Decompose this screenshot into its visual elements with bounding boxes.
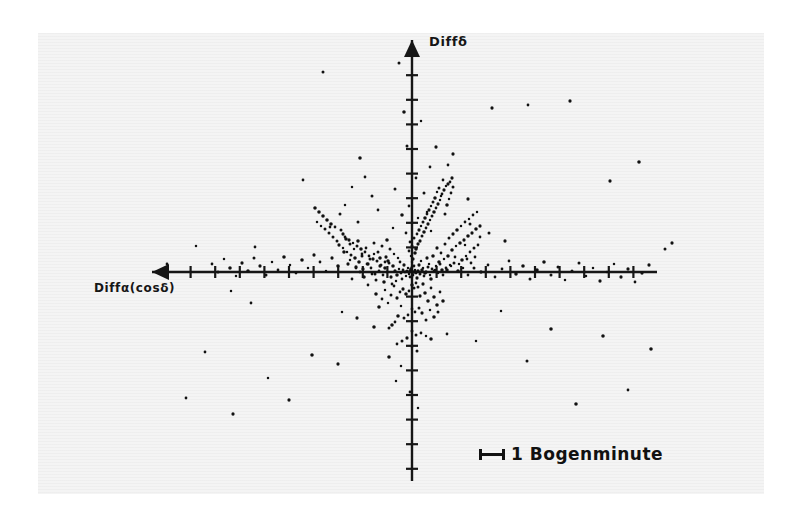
data-point <box>425 335 428 338</box>
data-point <box>341 232 344 235</box>
data-point <box>405 232 408 235</box>
data-point <box>420 234 423 237</box>
data-point <box>397 257 400 260</box>
data-point <box>410 329 413 332</box>
data-point <box>422 191 425 194</box>
data-point <box>329 222 333 226</box>
data-point <box>365 247 368 250</box>
data-point <box>418 272 421 275</box>
data-point <box>254 246 257 249</box>
data-point <box>414 311 417 314</box>
data-point <box>450 248 454 252</box>
data-point <box>376 250 379 253</box>
data-point <box>388 247 391 250</box>
data-point <box>416 242 419 245</box>
data-point <box>356 239 360 243</box>
data-point <box>429 337 433 341</box>
data-point <box>423 275 426 278</box>
data-point <box>408 205 411 208</box>
data-point <box>230 290 233 293</box>
data-point <box>366 262 369 265</box>
data-point <box>413 265 416 268</box>
data-point <box>400 339 403 342</box>
data-point <box>353 248 356 251</box>
data-point <box>362 275 366 279</box>
data-point <box>442 274 445 277</box>
data-point <box>464 221 467 224</box>
data-point <box>282 255 286 259</box>
data-point <box>348 242 351 245</box>
data-point <box>670 241 673 244</box>
data-point <box>430 230 433 233</box>
data-point <box>472 266 475 269</box>
data-point <box>374 292 378 296</box>
data-point <box>317 210 321 214</box>
data-point <box>387 326 390 329</box>
data-point <box>451 152 454 155</box>
data-point <box>443 242 446 245</box>
data-point <box>433 196 437 200</box>
data-point <box>355 244 358 247</box>
data-point <box>472 246 475 249</box>
data-point <box>425 256 428 259</box>
data-point <box>414 247 418 251</box>
data-point <box>465 255 468 258</box>
data-point <box>429 166 432 169</box>
data-point <box>346 251 349 254</box>
data-point <box>344 237 348 241</box>
scale-bar-right-cap <box>502 449 505 460</box>
data-point <box>442 188 445 191</box>
data-point <box>503 239 506 242</box>
data-point <box>415 177 418 180</box>
data-point <box>447 164 450 167</box>
data-point <box>395 296 398 299</box>
data-point <box>415 349 418 352</box>
data-point <box>381 298 384 301</box>
data-point <box>325 218 329 222</box>
data-point <box>327 231 330 234</box>
data-point <box>494 276 497 279</box>
data-point <box>374 278 377 281</box>
data-point <box>466 234 470 238</box>
data-point <box>416 233 419 236</box>
data-point <box>410 283 414 287</box>
data-point <box>295 272 298 275</box>
data-point <box>423 291 427 295</box>
data-point <box>525 359 528 362</box>
data-point <box>373 272 376 275</box>
data-point <box>405 336 408 339</box>
data-point <box>441 299 445 303</box>
data-point <box>598 279 601 282</box>
data-point <box>355 316 358 319</box>
data-point <box>411 261 414 264</box>
data-point <box>359 271 362 274</box>
data-point <box>454 256 457 259</box>
data-point <box>412 274 415 277</box>
data-point <box>231 412 234 415</box>
data-point <box>435 246 438 249</box>
data-point <box>408 273 411 276</box>
data-point <box>395 273 399 277</box>
data-point <box>349 253 352 256</box>
data-point <box>351 278 354 281</box>
data-point <box>386 271 389 274</box>
y-axis-label: Diffδ <box>429 34 468 49</box>
data-point <box>367 284 370 287</box>
data-point <box>475 340 478 343</box>
data-point <box>408 290 411 293</box>
data-point <box>455 245 458 248</box>
data-point <box>574 402 578 406</box>
data-point <box>339 228 342 231</box>
data-point <box>407 267 410 270</box>
data-point <box>430 205 433 208</box>
data-point <box>398 268 401 271</box>
data-point <box>422 267 425 270</box>
data-point <box>501 268 504 271</box>
data-point <box>521 264 525 268</box>
data-point <box>240 261 243 264</box>
data-point <box>634 281 637 284</box>
data-point <box>413 251 417 255</box>
data-point <box>349 259 352 262</box>
data-point <box>400 272 403 275</box>
data-point <box>469 251 472 254</box>
